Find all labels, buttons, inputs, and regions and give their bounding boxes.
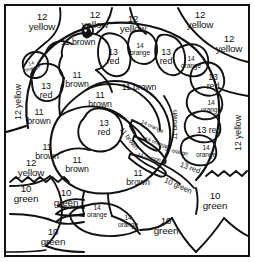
turkey-line-art	[0, 0, 255, 262]
coloring-page-canvas: 12 yellow12 yellow12 yellow12 yellow12 y…	[0, 0, 255, 262]
